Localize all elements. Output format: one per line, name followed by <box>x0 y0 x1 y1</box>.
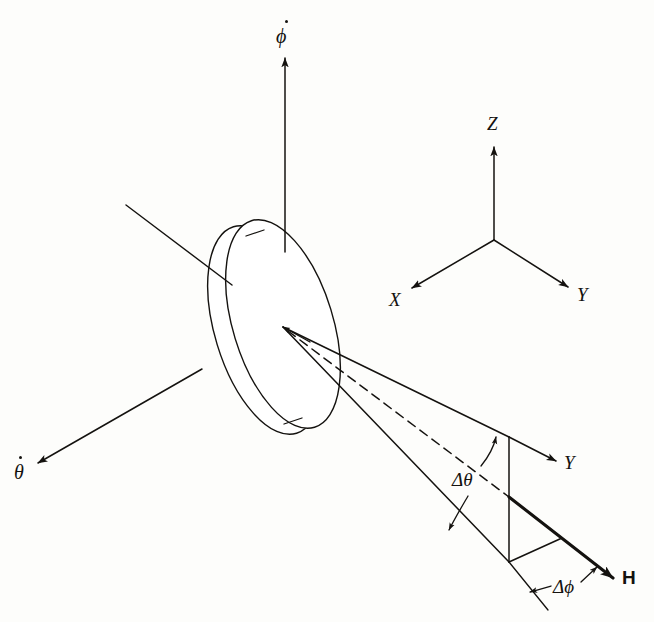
delta-theta-lower-leader <box>449 496 468 530</box>
reference-triad <box>412 147 568 288</box>
theta-dot-label-group: θ <box>14 462 24 482</box>
axis-x-line <box>412 240 494 288</box>
delta-phi-extension-line <box>509 562 548 610</box>
delta-theta-upper-leader <box>481 437 496 466</box>
axis-x-label: X <box>389 290 401 309</box>
rotor-disk <box>186 206 363 448</box>
axis-y-label: Y <box>577 285 588 304</box>
theta-dot-vector <box>38 369 202 463</box>
h-vector <box>509 497 613 578</box>
delta-theta-label: Δθ <box>452 470 472 489</box>
cone-lower-edge <box>283 327 509 562</box>
delta-phi-label: Δϕ <box>553 577 574 596</box>
axis-y-line <box>494 240 568 287</box>
theta-dot-overdot <box>19 456 22 459</box>
figure-canvas: ϕ θ Z X Y Y H Δθ Δϕ <box>0 0 654 622</box>
phi-dot-overdot <box>285 20 288 23</box>
diagram-svg <box>0 0 654 622</box>
axis-z-label: Z <box>487 114 498 133</box>
delta-phi-left-arrow <box>530 586 551 592</box>
cone-y-vector <box>509 437 556 461</box>
delta-phi-right-arrow <box>581 567 597 582</box>
cone-base-triangle <box>509 497 562 562</box>
phi-dot-label-group: ϕ <box>276 26 286 46</box>
h-vector-label: H <box>622 568 636 587</box>
phi-dot-label: ϕ <box>276 25 286 47</box>
cone-y-label: Y <box>564 453 575 472</box>
theta-dot-label: θ <box>14 461 24 483</box>
